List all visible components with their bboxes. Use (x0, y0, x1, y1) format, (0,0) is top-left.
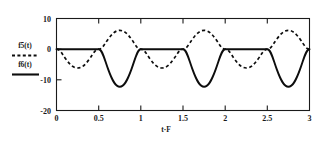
y-tick-marks (57, 49, 62, 80)
plot-frame (57, 19, 310, 111)
x-tick-label-2-5: 2.5 (262, 114, 272, 123)
x-tick-label-0-5: 0.5 (94, 114, 104, 123)
x-tick-marks (99, 19, 268, 111)
x-tick-label-0: 0 (55, 114, 59, 123)
y-tick-label-minus-20: -20 (40, 107, 51, 116)
legend-label-f6: f6(t) (18, 60, 32, 69)
x-tick-label-2: 2 (223, 114, 227, 123)
x-tick-label-1-5: 1.5 (178, 114, 188, 123)
x-axis-title: t·F (161, 125, 171, 134)
legend-label-f5: f5(t) (18, 41, 32, 50)
y-tick-label-minus-10: -10 (40, 76, 51, 85)
series-f6-curve (57, 49, 310, 87)
chart-figure: f5(t) f6(t) 10 0 -10 -20 (0, 0, 319, 142)
x-tick-label-3: 3 (308, 114, 312, 123)
x-tick-label-1: 1 (139, 114, 143, 123)
y-tick-label-0: 0 (47, 45, 51, 54)
y-axis-tick-labels: 10 0 -10 -20 (40, 15, 51, 116)
y-tick-label-10: 10 (43, 15, 51, 24)
x-axis-tick-labels: 0 0.5 1 1.5 2 2.5 3 (55, 114, 312, 123)
chart-legend: f5(t) f6(t) (12, 41, 39, 75)
